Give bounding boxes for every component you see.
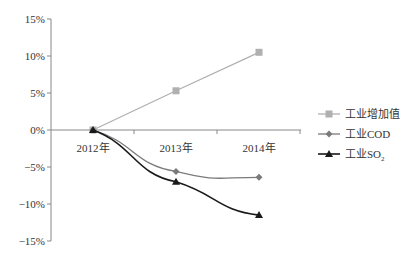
y-tick-label: 15% (25, 13, 45, 25)
legend-label: 工业SO2 (345, 148, 385, 163)
legend-item-1: 工业COD (318, 128, 390, 140)
legend-label: 工业增加值 (345, 107, 400, 120)
data-series (89, 49, 263, 218)
y-tick-label: 10% (25, 50, 45, 62)
line-chart: 15%10%5%0%−5%−10%−15% 2012年2013年2014年 工业… (0, 0, 412, 258)
y-tick-label: 5% (30, 87, 45, 99)
x-axis-ticks: 2012年2013年2014年 (77, 130, 301, 154)
y-tick-label: 0% (30, 124, 45, 136)
y-tick-label: −15% (19, 235, 45, 247)
y-tick-label: −10% (19, 198, 45, 210)
y-axis-ticks: 15%10%5%0%−5%−10%−15% (19, 13, 51, 247)
y-tick-label: −5% (24, 161, 45, 173)
legend: 工业增加值工业COD工业SO2 (318, 107, 400, 163)
legend-label: 工业COD (345, 128, 390, 140)
x-category-label: 2012年 (77, 141, 110, 154)
legend-item-2: 工业SO2 (318, 148, 385, 163)
x-category-label: 2014年 (243, 141, 276, 154)
series-0 (90, 49, 263, 134)
legend-item-0: 工业增加值 (318, 107, 400, 120)
x-category-label: 2013年 (160, 141, 193, 154)
legend-subscript: 2 (381, 155, 385, 163)
